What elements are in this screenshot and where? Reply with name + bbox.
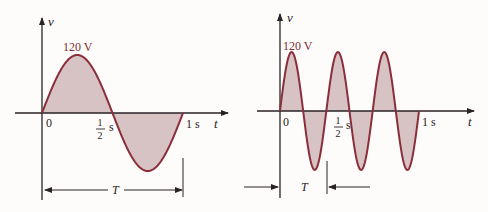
right-peak-label: 120 V [283,39,313,53]
left-half-second-label: 1 2 s [96,117,114,141]
sine-wave-period-diagram: v t 120 V 0 1 2 s 1 s T v t 120 [0,0,488,212]
svg-text:s: s [109,120,114,134]
svg-text:1: 1 [336,115,341,126]
right-plot: v t 120 V 0 1 2 s 1 s T [244,10,474,198]
left-x-axis-label: t [214,116,218,131]
right-period-label: T [301,180,309,194]
svg-text:1: 1 [98,117,103,128]
right-origin-label: 0 [283,115,289,129]
left-origin-label: 0 [46,116,52,130]
svg-text:2: 2 [98,130,103,141]
left-plot: v t 120 V 0 1 2 s 1 s T [15,14,228,200]
right-end-label: 1 s [422,115,436,129]
left-peak-label: 120 V [63,40,93,54]
right-x-axis-label: t [468,114,472,129]
diagram-canvas: v t 120 V 0 1 2 s 1 s T v t 120 [0,0,488,212]
right-half-second-label: 1 2 s [334,115,351,139]
left-y-axis-label: v [48,14,54,29]
left-period-label: T [112,183,120,197]
left-end-label: 1 s [186,117,200,131]
svg-text:2: 2 [336,128,341,139]
right-y-axis-label: v [287,10,293,25]
svg-text:s: s [346,118,351,132]
